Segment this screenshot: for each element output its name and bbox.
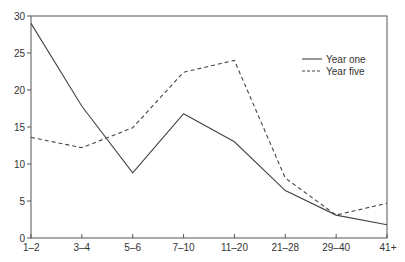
y-axis: 051015202530 bbox=[14, 11, 31, 244]
x-tick-label: 7–10 bbox=[172, 242, 195, 253]
x-tick-label: 21–28 bbox=[271, 242, 299, 253]
legend: Year oneYear five bbox=[302, 54, 366, 77]
series-line-year-five bbox=[31, 60, 387, 215]
x-axis: 1–23–45–67–1011–2021–2829–4041+ bbox=[23, 234, 397, 253]
y-tick-label: 5 bbox=[19, 196, 25, 207]
plot-border bbox=[31, 16, 387, 238]
x-tick-label: 29–40 bbox=[322, 242, 350, 253]
legend-label: Year five bbox=[326, 66, 365, 77]
y-tick-label: 20 bbox=[14, 85, 26, 96]
x-tick-label: 41+ bbox=[380, 242, 397, 253]
y-tick-label: 25 bbox=[14, 48, 26, 59]
x-tick-label: 5–6 bbox=[124, 242, 141, 253]
x-tick-label: 1–2 bbox=[23, 242, 40, 253]
plot-frame bbox=[31, 16, 387, 238]
y-tick-label: 10 bbox=[14, 159, 26, 170]
x-tick-label: 11–20 bbox=[221, 242, 249, 253]
y-tick-label: 15 bbox=[14, 122, 26, 133]
legend-label: Year one bbox=[326, 54, 366, 65]
x-tick-label: 3–4 bbox=[74, 242, 91, 253]
y-tick-label: 30 bbox=[14, 11, 26, 22]
line-chart: 051015202530 1–23–45–67–1011–2021–2829–4… bbox=[0, 0, 405, 262]
